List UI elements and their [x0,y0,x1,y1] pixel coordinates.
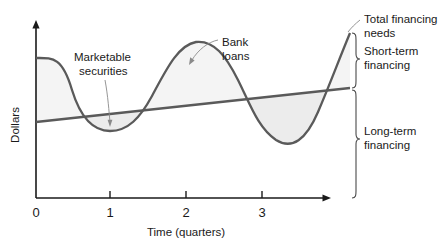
total-financing-label-line2: needs [364,27,396,39]
y-axis-title: Dollars [9,107,21,143]
short-term-label-line2: financing [364,59,410,71]
x-axis-title: Time (quarters) [147,226,225,238]
bank-loans-label-line1: Bank [222,36,248,48]
x-tick-label-1: 1 [106,205,113,220]
long-term-label-line1: Long-term [364,125,416,137]
marketable-securities-label-line1: Marketable [74,51,131,63]
x-tick-label-0: 0 [32,205,39,220]
marketable-securities-label-line2: securities [79,65,128,77]
bank-loans-label-line2: loans [222,50,250,62]
financing-needs-chart: 0 1 2 3 Time (quarters) Dollars Marketab… [0,0,439,243]
short-term-label-line1: Short-term [364,45,418,57]
figure-container: 0 1 2 3 Time (quarters) Dollars Marketab… [0,0,439,243]
x-tick-label-2: 2 [182,205,189,220]
total-financing-label-line1: Total financing [364,13,438,25]
x-tick-label-3: 3 [258,205,265,220]
long-term-label-line2: financing [364,139,410,151]
